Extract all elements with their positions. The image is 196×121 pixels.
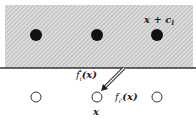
diagram-canvas: x + ci fi*(x) fi'(x) x (0, 0, 196, 121)
label-f-star: fi*(x) (75, 68, 97, 82)
open-point-3 (152, 92, 162, 102)
filled-point-3 (151, 29, 163, 41)
label-f-prime: fi'(x) (114, 91, 138, 104)
open-point-1 (31, 92, 41, 102)
filled-point-1 (30, 29, 42, 41)
open-point-2 (92, 92, 102, 102)
filled-point-2 (91, 29, 103, 41)
label-point-x: x (92, 106, 100, 117)
projection-arrow (101, 68, 124, 91)
